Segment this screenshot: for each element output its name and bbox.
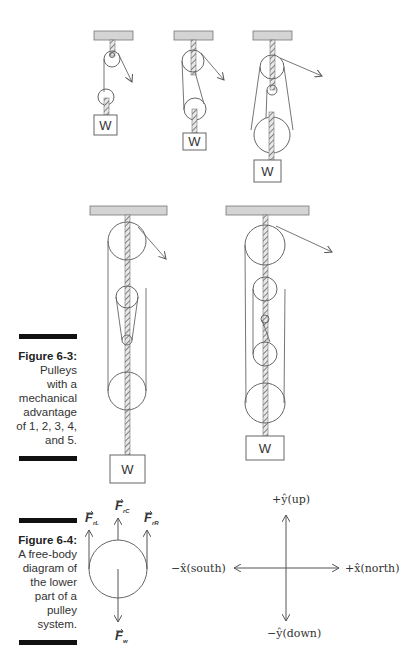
free-body-diagram: FrL FrC FrR Fw: [85, 498, 159, 644]
caption-line: part of a: [0, 589, 77, 603]
caption-line: pulley: [0, 603, 77, 617]
caption-line: with a: [0, 377, 77, 391]
caption-line: diagram of: [0, 561, 77, 575]
ceiling-bar: [226, 206, 309, 215]
figure-6-3-caption: Figure 6-3: Pulleys with a mechanical ad…: [0, 349, 77, 447]
rope: [192, 109, 197, 133]
force-label-weight: Fw: [115, 628, 128, 644]
pull-arrow: [201, 53, 224, 80]
caption-bar-top: [19, 518, 77, 523]
caption-line: and 5.: [0, 433, 77, 447]
axis-label-north: +x̂(north): [345, 562, 399, 575]
pull-arrow: [118, 53, 132, 82]
pulley-system-ma5: W: [226, 206, 332, 460]
caption-bar-top: [19, 334, 77, 339]
pulley-system-ma4: W: [90, 206, 167, 483]
weight-label: W: [121, 462, 134, 477]
pulley-system-ma1: W: [94, 31, 133, 135]
ceiling-bar: [90, 206, 167, 215]
caption-line: A free-body: [0, 547, 77, 561]
pulley-system-ma2: W: [174, 31, 224, 150]
rope-line: [245, 245, 246, 403]
caption-title: Figure 6-3:: [0, 349, 77, 363]
weight-label: W: [261, 164, 274, 179]
weight-label: W: [259, 441, 272, 456]
caption-line: of 1, 2, 3, 4,: [0, 419, 77, 433]
ceiling-bar: [174, 31, 213, 40]
weight-label: W: [188, 134, 201, 149]
rope-line: [116, 297, 122, 340]
caption-line: advantage: [0, 405, 77, 419]
rope: [270, 40, 275, 90]
caption-line: system.: [0, 617, 77, 631]
pull-arrow: [138, 227, 166, 259]
rope-line: [284, 289, 285, 403]
caption-title: Figure 6-4:: [0, 533, 77, 547]
pulley-system-ma3: W: [251, 31, 322, 182]
caption-bar-bottom: [19, 456, 77, 461]
axis-label-down: −ŷ(down): [267, 627, 321, 640]
axis-label-south: −x̂(south): [171, 562, 226, 575]
weight-label: W: [99, 118, 112, 133]
rope: [269, 112, 274, 160]
rope-line: [251, 67, 260, 130]
ceiling-bar: [94, 31, 133, 40]
rope-line: [132, 297, 138, 340]
rope-line: [182, 61, 184, 110]
rope: [104, 98, 109, 115]
caption-line: Pulleys: [0, 363, 77, 377]
caption-line: mechanical: [0, 391, 77, 405]
axis-label-up: +ŷ(up): [272, 493, 310, 506]
pull-arrow: [280, 58, 322, 76]
rope: [191, 40, 196, 75]
coordinate-axes: +ŷ(up) −ŷ(down) +x̂(north) −x̂(south): [171, 493, 399, 640]
rope-line: [284, 67, 293, 130]
caption-bar-bottom: [19, 640, 77, 645]
figure-6-4-caption: Figure 6-4: A free-body diagram of the l…: [0, 533, 77, 631]
caption-line: the lower: [0, 575, 77, 589]
rope-line: [266, 90, 267, 118]
ceiling-bar: [253, 31, 292, 40]
